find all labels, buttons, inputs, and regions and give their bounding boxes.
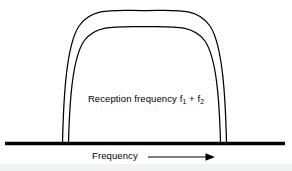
right-arrow-icon [206, 153, 216, 161]
figure-canvas [0, 0, 292, 171]
reception-label-operator: + f [186, 93, 200, 104]
frequency-axis-label: Frequency [92, 151, 138, 161]
bottom-edge-strip [0, 164, 292, 171]
outer-response-curve [63, 10, 227, 143]
reception-label-prefix: Reception frequency f [88, 93, 183, 104]
inner-response-curve [69, 27, 221, 143]
reception-label-sub1: 1 [182, 98, 186, 105]
reception-frequency-label: Reception frequency f1 + f2 [0, 94, 292, 104]
bandpass-response-figure: Reception frequency f1 + f2 Frequency [0, 0, 292, 171]
reception-label-sub2: 2 [200, 98, 204, 105]
